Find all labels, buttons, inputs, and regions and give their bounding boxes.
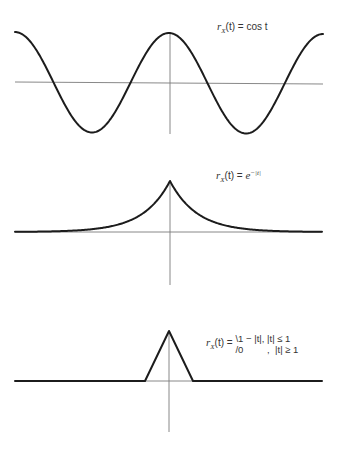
triangle-equation-label: rX(t) = \1 − |t|, |t| ≤ 1 /0 , |t| ≥ 1 xyxy=(206,333,298,355)
equation-arg: (t) xyxy=(226,21,235,32)
exponential-curve xyxy=(15,181,322,232)
case-2: /0 , |t| ≥ 1 xyxy=(235,344,298,355)
equation-exponent: −|t| xyxy=(250,169,261,177)
cosine-equation-label: rX(t) = cos t xyxy=(217,20,268,36)
equation-equals: = xyxy=(235,21,246,32)
equation-arg: (t) xyxy=(225,170,234,181)
plots-canvas xyxy=(0,0,345,457)
equation-equals: = xyxy=(234,170,245,181)
equation-arg: (t) xyxy=(215,337,224,348)
case-1: \1 − |t|, |t| ≤ 1 xyxy=(235,333,298,344)
case-2-text: 0 , |t| ≥ 1 xyxy=(238,344,298,355)
equation-rhs: cos t xyxy=(246,21,267,32)
plot-cosine xyxy=(15,32,323,134)
plot-exponential xyxy=(15,181,322,285)
x-axis xyxy=(15,82,323,84)
case-1-text: 1 − |t|, |t| ≤ 1 xyxy=(238,333,290,344)
exponential-equation-label: rX(t) = e−|t| xyxy=(216,169,261,185)
figure: rX(t) = cos t rX(t) = e−|t| rX(t) = \1 −… xyxy=(0,0,345,457)
equation-equals: = xyxy=(224,337,235,348)
equation-cases: \1 − |t|, |t| ≤ 1 /0 , |t| ≥ 1 xyxy=(235,333,298,355)
